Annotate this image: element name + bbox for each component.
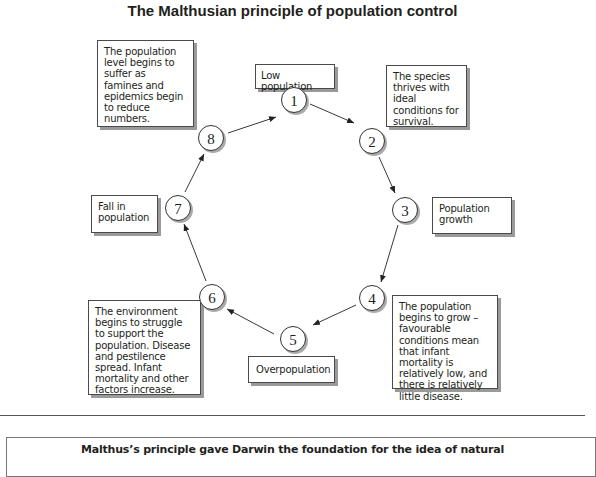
node-4-circle: 4 [359,285,385,311]
node-6-label: The environment begins to struggle to su… [95,306,190,395]
node-2-circle: 2 [359,128,385,154]
node-1-circle: 1 [281,87,307,113]
node-2-label: The species thrives with ideal condition… [393,71,459,127]
node-4-label: The population begins to grow – favourab… [399,301,487,402]
node-8-circle: 8 [198,125,224,151]
node-5-label-box: Overpopulation [248,356,335,383]
node-3-label: Population growth [439,203,490,225]
node-5-label: Overpopulation [256,364,330,375]
node-6-label-box: The environment begins to struggle to su… [88,300,201,395]
node-8-label: The population level begins to suffer as… [104,46,183,124]
node-7-circle: 7 [165,195,191,221]
footer-text: Malthus’s principle gave Darwin the foun… [0,443,585,456]
node-6-circle: 6 [199,284,225,310]
node-8-label-box: The population level begins to suffer as… [97,40,194,127]
node-5-circle: 5 [280,326,306,352]
node-7-label-box: Fall in population [91,195,158,233]
node-2-label-box: The species thrives with ideal condition… [386,65,467,127]
node-7-label: Fall in population [98,201,149,223]
node-1-label-box: Low population [255,64,335,89]
node-4-label-box: The population begins to grow – favourab… [392,295,498,389]
node-3-circle: 3 [392,197,418,223]
node-3-label-box: Population growth [432,197,512,234]
section-divider [0,415,585,416]
